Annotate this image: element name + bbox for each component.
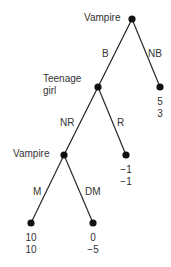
leaf-R (122, 151, 129, 158)
leaf-NB (156, 83, 163, 90)
payoff-R-player1: −1 (114, 164, 138, 176)
edge-label-DM: DM (85, 186, 101, 198)
payoff-NB-player2: 3 (148, 108, 171, 120)
node-root (128, 15, 135, 22)
player-label-girl-line1: Teenage (43, 73, 81, 85)
payoff-NB-player1: 5 (148, 96, 171, 108)
leaf-M (27, 219, 34, 226)
node-teenage-girl (94, 83, 101, 90)
edge-label-M: M (33, 186, 41, 198)
edge-label-NR: NR (60, 117, 74, 129)
payoff-DM-player1: 0 (81, 232, 105, 244)
player-label-girl-line2: girl (43, 85, 56, 97)
edge-label-R: R (117, 117, 124, 129)
edge-label-NB: NB (148, 48, 162, 60)
game-tree-canvas (0, 0, 171, 267)
payoff-M-player1: 10 (19, 232, 43, 244)
player-label-vampire-2: Vampire (13, 148, 50, 160)
payoff-DM-player2: −5 (81, 244, 105, 256)
payoff-R-player2: −1 (114, 176, 138, 188)
edge-label-B: B (102, 48, 109, 60)
player-label-root: Vampire (84, 12, 121, 24)
payoff-M-player2: 10 (19, 244, 43, 256)
leaf-DM (89, 219, 96, 226)
node-vampire-2 (60, 151, 67, 158)
